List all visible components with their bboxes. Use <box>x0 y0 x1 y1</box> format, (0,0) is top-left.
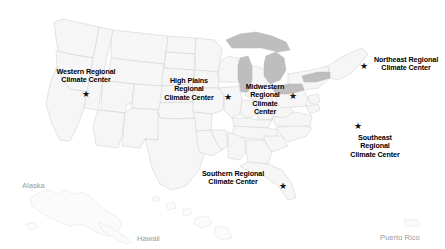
label-midwestern-regional-climate-center: Midwestern Regional Climate Center <box>243 83 287 117</box>
label-line: Climate Center <box>370 64 442 72</box>
inset-label-alaska: Alaska <box>22 181 45 190</box>
label-line: Climate Center <box>345 151 405 159</box>
label-southern-regional-climate-center: Southern Regional Climate Center <box>192 170 274 187</box>
star-marker-southeast: ★ <box>354 122 362 131</box>
puerto-rico-inset <box>404 220 420 226</box>
us-climate-centers-map: Western Regional Climate Center ★ High P… <box>0 0 445 249</box>
label-line: Climate Center <box>192 178 274 186</box>
label-line: Center <box>243 108 287 116</box>
usa-map-graphic <box>0 0 445 249</box>
label-southeast-regional-climate-center: Southeast Regional Climate Center <box>345 134 405 159</box>
star-marker-midwestern: ★ <box>289 92 297 101</box>
inset-label-hawaii: Hawaii <box>137 234 160 243</box>
alaska-inset <box>26 190 132 244</box>
star-marker-northeast: ★ <box>360 62 368 71</box>
label-northeast-regional-climate-center: Northeast Regional Climate Center <box>370 56 442 73</box>
hawaii-inset <box>152 196 232 240</box>
star-marker-western: ★ <box>82 90 90 99</box>
star-marker-high-plains: ★ <box>224 93 232 102</box>
inset-label-puerto-rico: Puerto Rico <box>380 233 420 242</box>
label-western-regional-climate-center: Western Regional Climate Center <box>47 68 125 85</box>
label-line: Climate Center <box>47 76 125 84</box>
label-high-plains-regional-climate-center: High Plains Regional Climate Center <box>158 77 220 102</box>
star-marker-southern: ★ <box>279 182 287 191</box>
label-line: Climate Center <box>158 94 220 102</box>
